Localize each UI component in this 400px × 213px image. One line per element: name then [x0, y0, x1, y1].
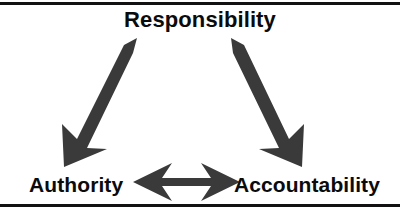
bottom-divider-rule [0, 204, 400, 207]
node-label-responsibility: Responsibility [0, 9, 400, 31]
node-label-accountability: Accountability [234, 174, 380, 195]
arrow-authority-accountability [133, 163, 240, 201]
relationship-diagram: Responsibility Authority Accountability [0, 0, 400, 213]
arrow-authority-responsibility [62, 38, 137, 167]
arrow-responsibility-accountability [231, 38, 304, 167]
node-label-authority: Authority [29, 174, 123, 195]
